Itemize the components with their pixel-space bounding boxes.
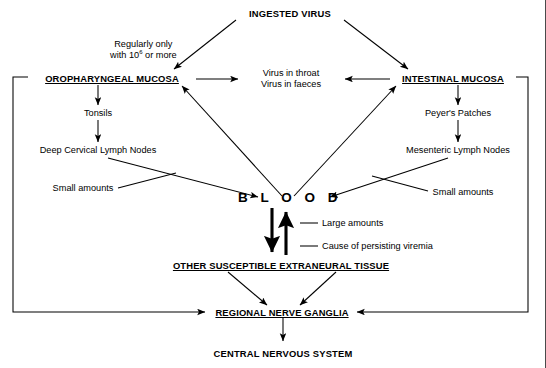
note-threshold-suffix: or more bbox=[142, 50, 176, 60]
label-large-amounts: Large amounts bbox=[322, 218, 383, 229]
node-oropharyngeal-mucosa: OROPHARYNGEAL MUCOSA bbox=[45, 73, 179, 84]
label-small-amounts-right: Small amounts bbox=[433, 187, 494, 198]
edge-deep-cervical-to-blood bbox=[108, 158, 258, 197]
node-tonsils: Tonsils bbox=[84, 108, 112, 119]
label-small-amounts-left: Small amounts bbox=[53, 183, 114, 194]
node-blood: B L O O D bbox=[238, 190, 342, 206]
label-cause-of-persisting-viremia: Cause of persisting viremia bbox=[322, 241, 433, 252]
leader-small-amounts-right bbox=[372, 176, 428, 191]
node-ingested-virus: INGESTED VIRUS bbox=[249, 8, 331, 19]
node-virus-in-throat: Virus in throat bbox=[263, 68, 320, 79]
note-regularly-only: Regularly only with 106 or more bbox=[110, 39, 177, 61]
note-regularly-only-line2: with 106 or more bbox=[110, 50, 177, 61]
node-deep-cervical-lymph-nodes: Deep Cervical Lymph Nodes bbox=[40, 145, 157, 156]
diagram-canvas: INGESTED VIRUS Regularly only with 106 o… bbox=[0, 0, 546, 368]
node-mesenteric-lymph-nodes: Mesenteric Lymph Nodes bbox=[406, 145, 510, 156]
node-other-susceptible-extraneural-tissue: OTHER SUSCEPTIBLE EXTRANEURAL TISSUE bbox=[173, 260, 389, 271]
edge-blood-to-oropharyngeal bbox=[182, 86, 282, 196]
leader-small-amounts-left bbox=[118, 173, 176, 188]
node-central-nervous-system: CENTRAL NERVOUS SYSTEM bbox=[214, 348, 353, 359]
edge-extraneural-left-to-ganglia bbox=[228, 272, 267, 305]
node-peyers-patches: Peyer's Patches bbox=[425, 108, 491, 119]
note-threshold-prefix: with 10 bbox=[110, 50, 139, 60]
edge-blood-to-intestinal bbox=[294, 86, 396, 196]
edge-ingested-to-intestinal bbox=[344, 20, 408, 69]
edge-extraneural-right-to-ganglia bbox=[300, 272, 336, 305]
node-regional-nerve-ganglia: REGIONAL NERVE GANGLIA bbox=[215, 307, 348, 318]
note-regularly-only-line1: Regularly only bbox=[110, 39, 177, 50]
node-virus-in-faeces: Virus in faeces bbox=[261, 79, 321, 90]
edge-ingested-to-oropharyngeal bbox=[174, 20, 236, 69]
edge-mesenteric-to-blood bbox=[330, 158, 448, 197]
node-intestinal-mucosa: INTESTINAL MUCOSA bbox=[402, 73, 504, 84]
